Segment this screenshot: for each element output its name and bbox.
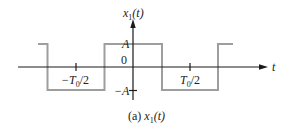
tick-pos-label: T0/2: [180, 73, 200, 89]
y-axis-label: x1(t): [122, 6, 144, 22]
tick-neg-label: −T0/2: [61, 73, 89, 89]
level-high-label: A: [121, 37, 130, 51]
level-zero-label: 0: [121, 53, 127, 67]
level-low-label: −A: [114, 84, 130, 98]
figure-caption: (a) x1(t): [128, 109, 165, 125]
x-axis-label: t: [272, 60, 276, 74]
t-axis-arrow-icon: [259, 64, 268, 69]
square-wave-diagram: x1(t) A 0 −A −T0/2 T0/2 t (a) x1(t): [0, 0, 290, 131]
